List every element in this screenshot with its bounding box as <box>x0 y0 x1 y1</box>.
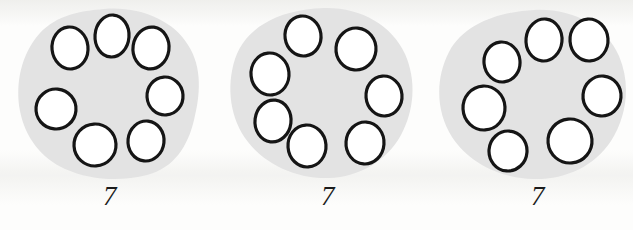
counting-circle[interactable] <box>146 76 185 116</box>
group-2-label: 7 <box>218 181 428 211</box>
counting-circle[interactable] <box>462 85 506 131</box>
counting-circle[interactable] <box>569 18 610 63</box>
worksheet-page: 7 7 7 <box>0 0 633 230</box>
counting-circle[interactable] <box>94 14 131 58</box>
group-2-blob-svg <box>218 4 418 184</box>
counting-circle[interactable] <box>364 75 403 118</box>
group-1[interactable]: 7 <box>8 0 208 230</box>
counting-circle[interactable] <box>345 121 386 166</box>
groups-row: 7 7 7 <box>0 0 633 230</box>
group-2[interactable]: 7 <box>218 0 418 230</box>
counting-circle[interactable] <box>546 117 594 165</box>
group-1-blob <box>8 4 208 184</box>
counting-circle[interactable] <box>287 124 328 169</box>
counting-circle[interactable] <box>488 130 529 173</box>
group-3-blob-svg <box>424 4 624 184</box>
group-1-label: 7 <box>8 181 210 211</box>
group-1-blob-svg <box>8 4 208 184</box>
counting-circle[interactable] <box>34 87 77 130</box>
counting-circle[interactable] <box>334 26 378 71</box>
group-2-blob <box>218 4 418 184</box>
group-3-label: 7 <box>424 181 633 211</box>
group-3[interactable]: 7 <box>424 0 624 230</box>
group-3-blob <box>424 4 624 184</box>
counting-circle[interactable] <box>73 123 117 167</box>
counting-circle[interactable] <box>581 74 622 117</box>
